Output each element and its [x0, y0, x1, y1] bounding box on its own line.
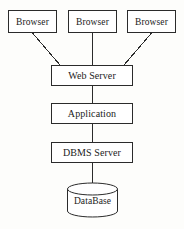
application-box[interactable] [52, 104, 133, 124]
browser-2-box[interactable] [69, 11, 117, 33]
database-cylinder-top [68, 183, 118, 195]
database-cylinder[interactable] [68, 183, 118, 217]
edge-browser1-to-web-server [33, 33, 61, 65]
browser-1-box[interactable] [9, 11, 57, 33]
diagram-canvas [0, 0, 184, 229]
edge-browser3-to-web-server [124, 33, 152, 65]
web-server-box[interactable] [52, 66, 133, 86]
architecture-diagram: Browser Browser Browser Web Server Appli… [0, 0, 184, 229]
browser-3-box[interactable] [128, 11, 176, 33]
dbms-server-box[interactable] [52, 143, 133, 163]
